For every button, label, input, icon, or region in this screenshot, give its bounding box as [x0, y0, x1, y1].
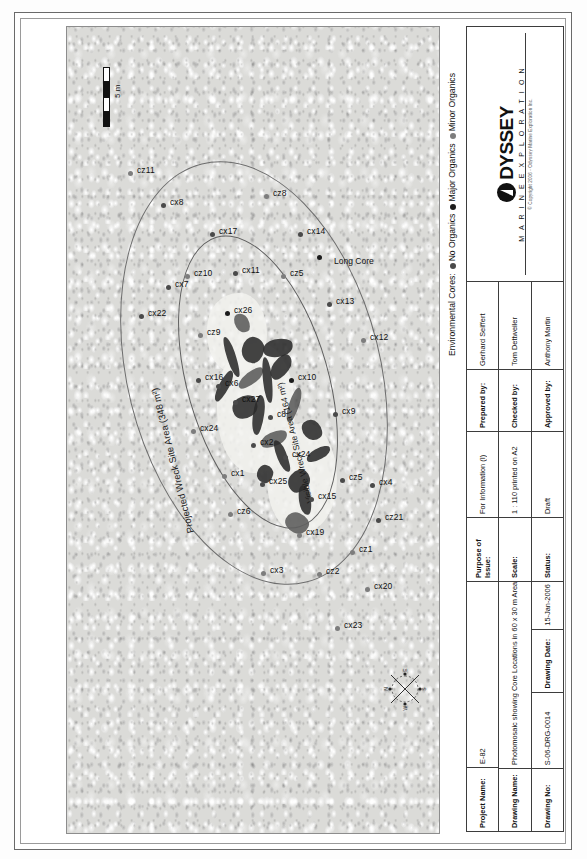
core-marker-label: cx17: [219, 226, 237, 236]
core-marker-label: c8: [277, 409, 286, 419]
core-marker-label: cz11: [137, 165, 155, 175]
legend-entry-major-organics: Major Organics: [447, 143, 457, 209]
legend: Environmental Cores: No Organics Major O…: [443, 26, 461, 356]
label-drawing-name: Drawing Name:: [499, 768, 530, 831]
scale-bar: [103, 67, 110, 127]
core-marker-label: cz6: [237, 506, 251, 516]
core-marker-label: cz10: [194, 268, 212, 278]
core-marker-label: cx14: [307, 226, 325, 236]
svg-text:S: S: [421, 687, 427, 691]
core-marker-label: cx15: [318, 491, 336, 501]
core-marker-label: cx7: [175, 279, 189, 289]
core-marker-label: cx4: [379, 477, 393, 487]
field-checked-by: Checked by: Tom Dettweiler: [499, 282, 531, 431]
core-marker-label: cx11: [242, 265, 260, 275]
long-core-label: Long Core: [334, 256, 374, 266]
field-scale: Scale: 1 : 110 printed on A2: [499, 432, 531, 581]
value-scale: 1 : 110 printed on A2: [510, 443, 519, 517]
core-marker-label: cx20: [374, 581, 392, 591]
label-scale: Scale:: [499, 517, 530, 581]
scale-bar-label: 5 m: [113, 85, 122, 98]
logo-tagline: M A R I N E E X P L O R A T I O N: [518, 66, 525, 241]
title-block: Project Name: E-82 Drawing Name: Photomo…: [466, 26, 564, 832]
value-prepared-by: Gerhard Seiffert: [478, 311, 487, 369]
field-prepared-by: Prepared by: Gerhard Seiffert: [467, 282, 499, 431]
legend-label-no-organics: No Organics: [447, 214, 457, 262]
legend-swatch-major-organics: [450, 204, 456, 210]
core-marker-label: cx27: [242, 394, 260, 404]
label-drawing-no: Drawing No:: [532, 768, 563, 831]
title-block-column-signoff: Prepared by: Gerhard Seiffert Checked by…: [467, 281, 563, 431]
legend-entry-no-organics: No Organics: [447, 214, 457, 270]
svg-text:W: W: [402, 705, 408, 710]
title-block-column-logo: DYSSEY M A R I N E E X P L O R A T I O N…: [467, 27, 563, 281]
core-marker-label: cx26: [234, 305, 252, 315]
value-purpose-of-issue: For Information (I): [478, 452, 487, 517]
core-marker-label: cx10: [298, 372, 316, 382]
legend-swatch-no-organics: [450, 263, 456, 269]
drawing-sheet: Projected Wreck Site Area (348 m²) Visib…: [0, 0, 587, 859]
core-marker-label: cz1: [359, 544, 373, 554]
core-marker-label: cz2: [326, 566, 340, 576]
core-marker-label: cx24: [292, 449, 310, 459]
photomosaic-map[interactable]: Projected Wreck Site Area (348 m²) Visib…: [66, 26, 440, 834]
core-marker-label: cx6: [225, 378, 239, 388]
title-block-column-project: Project Name: E-82 Drawing Name: Photomo…: [467, 581, 563, 831]
value-drawing-date: 15-Jan-2006: [543, 582, 552, 629]
legend-label-major-organics: Major Organics: [447, 143, 457, 201]
core-marker-label: cx22: [148, 308, 166, 318]
core-marker-label: cx12: [370, 332, 388, 342]
label-purpose-of-issue: Purpose of Issue:: [467, 517, 498, 581]
core-marker-label: cz5: [349, 472, 363, 482]
legend-label-minor-organics: Minor Organics: [447, 73, 457, 131]
legend-swatch-minor-organics: [450, 133, 456, 139]
svg-text:E: E: [402, 668, 408, 672]
compass-rose: N E S W: [383, 667, 427, 711]
value-drawing-name: Photomosaic showing Core Locations in 60…: [510, 582, 519, 768]
title-block-column-issue: Purpose of Issue: For Information (I) Sc…: [467, 431, 563, 581]
core-marker-label: cz9: [207, 327, 221, 337]
legend-title: Environmental Cores:: [447, 273, 457, 356]
core-marker-label: cx25: [269, 476, 287, 486]
core-marker-label: cx9: [342, 406, 356, 416]
core-marker-label: cz21: [385, 512, 403, 522]
odyssey-logo: DYSSEY M A R I N E E X P L O R A T I O N…: [467, 27, 563, 281]
map-rotation-container: Projected Wreck Site Area (348 m²) Visib…: [67, 27, 439, 833]
value-checked-by: Tom Dettweiler: [510, 314, 519, 369]
copyright-notice: © Copyright 2006 - Odyssey Marine Explor…: [528, 98, 533, 209]
core-marker-label: cz5: [290, 268, 304, 278]
core-marker-label: cx2: [260, 437, 274, 447]
core-marker-label: cx24: [200, 423, 218, 433]
core-marker-label: cx8: [170, 197, 184, 207]
field-drawing-name: Drawing Name: Photomosaic showing Core L…: [499, 582, 531, 831]
value-drawing-no: S-06-DRG-0014: [532, 692, 563, 769]
label-approved-by: Approved by:: [532, 369, 563, 431]
value-project-name: E-82: [478, 745, 487, 767]
label-project-name: Project Name:: [467, 767, 498, 831]
field-project-name: Project Name: E-82: [467, 582, 499, 831]
core-marker-label: cx1: [231, 468, 245, 478]
label-prepared-by: Prepared by:: [467, 369, 498, 431]
value-approved-by: Anthony Martin: [543, 313, 552, 369]
field-status: Status: Draft: [532, 432, 563, 581]
svg-text:N: N: [383, 687, 389, 691]
odyssey-sail-icon: [497, 183, 516, 202]
label-checked-by: Checked by:: [499, 369, 530, 431]
core-marker-label: cx16: [205, 372, 223, 382]
core-marker-label: cx13: [336, 296, 354, 306]
field-approved-by: Approved by: Anthony Martin: [532, 282, 563, 431]
core-marker-label: cx19: [306, 527, 324, 537]
label-status: Status:: [532, 517, 563, 581]
label-drawing-date: Drawing Date:: [532, 629, 563, 692]
field-drawing-no: Drawing No: S-06-DRG-0014 Drawing Date: …: [532, 582, 563, 831]
logo-wordmark: DYSSEY: [497, 106, 516, 180]
core-marker-label: cz8: [273, 188, 287, 198]
legend-entry-minor-organics: Minor Organics: [447, 73, 457, 139]
value-status: Draft: [543, 495, 552, 517]
core-marker-label: cx3: [270, 565, 284, 575]
field-purpose-of-issue: Purpose of Issue: For Information (I): [467, 432, 499, 581]
core-marker-label: cx23: [344, 620, 362, 630]
